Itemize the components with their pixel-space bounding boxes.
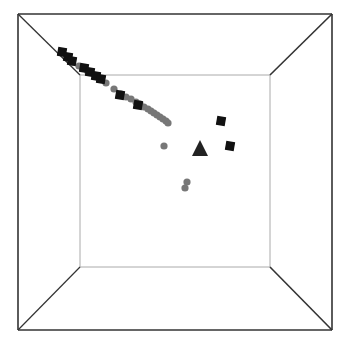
diagonal-bottom-right <box>270 267 332 330</box>
diagonal-top-right <box>270 14 332 75</box>
scatter-3d-plot <box>0 0 349 347</box>
gray-circle-marker <box>164 119 171 126</box>
data-markers <box>57 47 235 192</box>
black-triangle-marker <box>192 140 208 156</box>
black-square-marker <box>67 56 77 66</box>
black-square-marker <box>216 116 226 126</box>
plot-frame <box>18 14 332 330</box>
gray-circle-marker <box>160 142 167 149</box>
black-square-marker <box>96 74 106 84</box>
diagonal-top-left <box>18 14 80 75</box>
black-square-marker <box>115 90 125 100</box>
black-square-marker <box>225 141 235 151</box>
black-square-marker <box>133 100 143 110</box>
diagonal-bottom-left <box>18 267 80 330</box>
gray-circle-marker <box>181 184 188 191</box>
